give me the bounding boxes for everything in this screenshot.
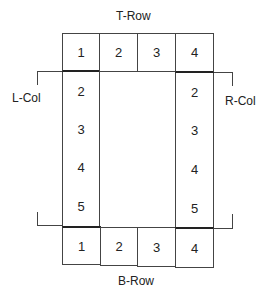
bottom-row-cell-1: 1 — [62, 226, 101, 265]
bottom-row-cell-2: 2 — [100, 227, 138, 266]
right-col-cell-2: 2 — [175, 73, 214, 112]
right-col-cell-3: 3 — [175, 111, 214, 151]
l-col-label: L-Col — [12, 91, 41, 105]
top-row-cell-2: 2 — [99, 33, 138, 72]
bottom-row-cell-3: 3 — [137, 227, 176, 267]
left-col-cell-4: 4 — [62, 148, 100, 187]
left-col-cell-5: 5 — [62, 186, 100, 226]
bottom-row-cell-4: 4 — [175, 227, 214, 268]
right-col-cell-4: 4 — [175, 150, 214, 189]
r-col-label: R-Col — [225, 94, 256, 108]
b-row-label: B-Row — [118, 274, 154, 288]
left-col-cell-2: 2 — [62, 72, 100, 111]
top-row-cell-1: 1 — [62, 33, 100, 72]
left-col-cell-3: 3 — [62, 110, 100, 149]
t-row-label: T-Row — [116, 9, 151, 23]
right-col-cell-5: 5 — [175, 188, 214, 228]
top-row-cell-4: 4 — [175, 33, 214, 73]
top-row-cell-3: 3 — [137, 33, 176, 72]
